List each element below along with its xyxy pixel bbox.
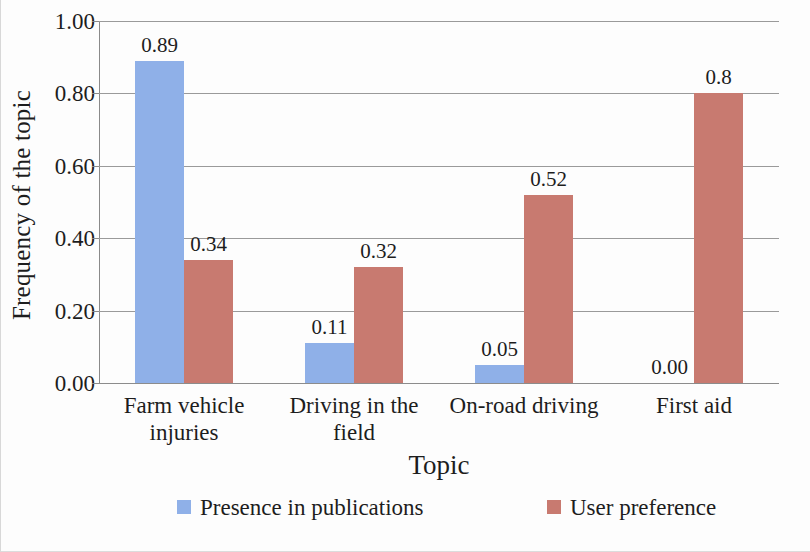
bar (475, 365, 524, 383)
bar (184, 260, 233, 383)
bar-data-label: 0.34 (169, 234, 248, 255)
x-axis-category-label: Driving in thefield (269, 392, 439, 446)
bar-data-label: 0.52 (509, 169, 588, 190)
category-label-line: Farm vehicle (99, 392, 269, 419)
category-label-line: First aid (609, 392, 779, 419)
bar-data-label: 0.89 (120, 35, 199, 56)
bar-data-label: 0.8 (679, 67, 758, 88)
chart-legend: Presence in publicationsUser preference (99, 492, 779, 524)
x-axis-title: Topic (99, 449, 779, 481)
category-label-line: On-road driving (439, 392, 609, 419)
bar (354, 267, 403, 383)
bar (135, 61, 184, 383)
legend-label: User preference (570, 496, 716, 519)
gridline (99, 93, 779, 94)
x-axis-category-label: First aid (609, 392, 779, 419)
x-axis-category-label: Farm vehicleinjuries (99, 392, 269, 446)
bar (694, 93, 743, 383)
gridline (99, 166, 779, 167)
bar (305, 343, 354, 383)
x-axis-category-labels: Farm vehicleinjuriesDriving in thefieldO… (99, 392, 779, 452)
x-axis-category-label: On-road driving (439, 392, 609, 419)
legend-item[interactable]: Presence in publications (177, 492, 424, 522)
bar-data-label: 0.32 (339, 241, 418, 262)
plot-area: 0.890.340.110.320.050.520.000.8 (99, 21, 779, 383)
category-label-line: injuries (99, 419, 269, 446)
legend-swatch-icon (547, 500, 561, 514)
category-label-line: field (269, 419, 439, 446)
gridline (99, 21, 779, 22)
x-axis-baseline (99, 383, 779, 384)
bar (524, 195, 573, 383)
bar-chart-figure: Frequency of the topic 1.000.800.600.400… (0, 0, 810, 552)
legend-swatch-icon (177, 500, 191, 514)
category-label-line: Driving in the (269, 392, 439, 419)
legend-item[interactable]: User preference (547, 492, 716, 522)
legend-label: Presence in publications (200, 496, 424, 519)
